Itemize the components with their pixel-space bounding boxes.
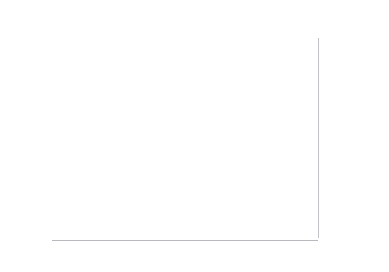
x-axis-line: [52, 240, 318, 241]
x-axis-labels: [0, 243, 389, 253]
right-value-rail: [318, 38, 319, 238]
y-axis-labels: [0, 36, 49, 240]
chart-page: [0, 0, 389, 272]
population-curve: [52, 36, 318, 241]
